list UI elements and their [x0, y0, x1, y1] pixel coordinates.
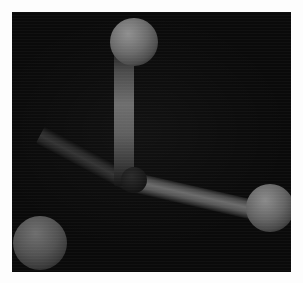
bond-to-top-atom	[114, 50, 134, 186]
screenshot-root: Ball-and-stick molecular model	[0, 0, 303, 283]
atom-top	[110, 18, 158, 66]
bond-to-right-atom	[130, 172, 259, 220]
molecule-scene	[12, 12, 291, 272]
atom-bottom-left	[13, 216, 67, 270]
atom-center	[121, 167, 147, 193]
atom-right	[246, 184, 291, 232]
render-canvas	[12, 12, 291, 272]
